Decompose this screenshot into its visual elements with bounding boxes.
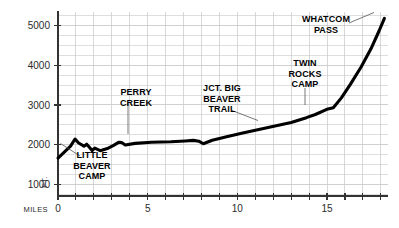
y-axis-tick-label: 4000 (28, 60, 51, 71)
chart-canvas: 10002000300040005000051015 LITTLEBEAVERC… (0, 0, 399, 228)
y-axis-tick-label: 2000 (28, 139, 51, 150)
x-axis-tick-label: 5 (145, 203, 151, 214)
annotation-little-beaver-camp: LITTLEBEAVERCAMP (73, 150, 111, 181)
y-axis-tick-label: 5000 (28, 20, 51, 31)
annotation-line: PASS (314, 25, 338, 35)
annotation-line: CREEK (120, 98, 152, 108)
annotation-twin-rocks-camp: TWINROCKSCAMP (288, 58, 321, 89)
x-axis-unit-label: MILES (23, 205, 48, 214)
annotation-line: BEAVER (73, 161, 111, 171)
annotation-line: TRAIL (209, 104, 236, 114)
annotation-line: PERRY (120, 87, 151, 97)
annotation-jct-big-beaver-trail: JCT. BIGBEAVERTRAIL (203, 83, 241, 114)
y-axis-unit-label: FT. (40, 176, 49, 188)
x-axis-tick-label: 10 (232, 203, 244, 214)
annotation-line: LITTLE (76, 150, 107, 160)
elevation-profile-chart: 10002000300040005000051015 LITTLEBEAVERC… (0, 0, 399, 228)
annotation-perry-creek: PERRYCREEK (120, 87, 152, 108)
annotation-line: JCT. BIG (203, 83, 241, 93)
annotation-line: CAMP (292, 79, 319, 89)
annotation-line: BEAVER (203, 94, 241, 104)
y-axis-tick-label: 3000 (28, 100, 51, 111)
annotation-line: CAMP (79, 171, 106, 181)
x-axis-tick-label: 0 (55, 203, 61, 214)
annotation-line: ROCKS (288, 69, 321, 79)
x-axis-tick-label: 15 (321, 203, 333, 214)
annotation-line: WHATCOM (302, 14, 350, 24)
annotation-line: TWIN (293, 58, 316, 68)
